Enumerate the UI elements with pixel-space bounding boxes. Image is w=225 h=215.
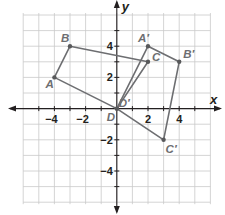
x-tick-label: 2 — [145, 113, 151, 125]
y-tick-label: −2 — [100, 134, 113, 146]
coordinate-plane: x y −4−22442−2−4 ABCDA′B′C′D′ — [0, 0, 225, 215]
y-tick-label: 2 — [107, 71, 113, 83]
vertex-point — [68, 44, 72, 48]
x-axis-arrow-left-icon — [8, 106, 16, 112]
vertex-point — [161, 138, 165, 142]
vertex-label: B — [61, 32, 69, 44]
vertex-label: C′ — [166, 143, 178, 155]
vertex-point — [146, 60, 150, 64]
vertex-point — [146, 44, 150, 48]
x-tick-label: −4 — [45, 113, 58, 125]
y-axis-label: y — [121, 0, 130, 14]
vertex-label: A′ — [137, 32, 150, 44]
x-tick-label: 4 — [176, 113, 183, 125]
vertex-point — [177, 60, 181, 64]
y-tick-label: 4 — [107, 40, 114, 52]
vertex-label: B′ — [183, 48, 195, 60]
vertex-label: A — [44, 78, 53, 90]
y-tick-label: −4 — [100, 165, 113, 177]
y-axis-arrow-down-icon — [114, 206, 120, 214]
vertex-label: D′ — [119, 97, 131, 109]
x-tick-label: −2 — [76, 113, 89, 125]
y-axis-arrow-up-icon — [114, 0, 120, 8]
figures: ABCDA′B′C′D′ — [44, 32, 195, 155]
x-axis-label: x — [209, 92, 218, 107]
vertex-label: D — [107, 111, 115, 123]
